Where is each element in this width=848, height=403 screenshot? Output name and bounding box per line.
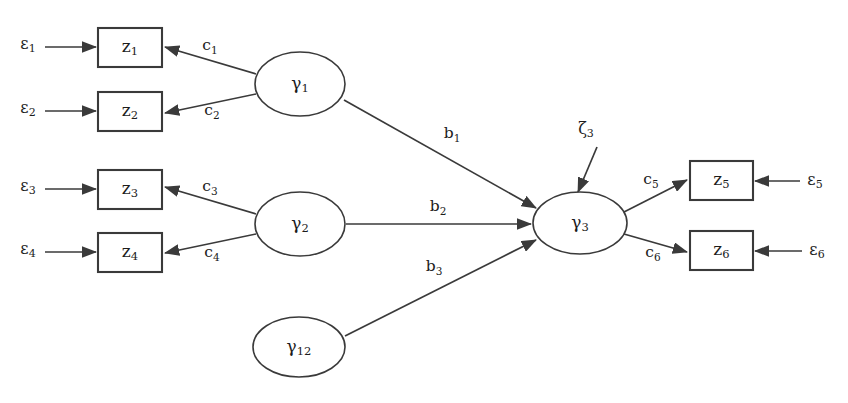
structural-label-b3: b3 xyxy=(426,257,443,277)
latent-node-gamma3: γ3 xyxy=(533,192,627,254)
diagram-canvas: γ1γ2γ12γ3z1z2z3z4z5z6 ε1ε2ε3ε4ε5ε6ζ3c1c2… xyxy=(0,0,848,403)
observed-node-z3: z3 xyxy=(98,170,162,209)
error-term-eps6: ε6 xyxy=(809,240,824,261)
nodes-layer: γ1γ2γ12γ3z1z2z3z4z5z6 xyxy=(98,28,753,377)
latent-node-gamma1: γ1 xyxy=(255,52,345,116)
sem-path-diagram: γ1γ2γ12γ3z1z2z3z4z5z6 ε1ε2ε3ε4ε5ε6ζ3c1c2… xyxy=(0,0,848,403)
loading-label-c2: c2 xyxy=(204,101,219,121)
observed-node-z5: z5 xyxy=(690,161,753,200)
edge-g12-to-g3 xyxy=(345,240,536,336)
loading-label-c6: c6 xyxy=(645,243,661,263)
structural-label-b2: b2 xyxy=(430,197,447,217)
error-term-eps1: ε1 xyxy=(20,34,35,55)
latent-node-gamma12: γ12 xyxy=(253,317,345,377)
observed-node-z1: z1 xyxy=(98,28,162,67)
edge-g3-to-z6 xyxy=(624,234,687,252)
loading-label-c5: c5 xyxy=(643,170,658,190)
error-term-eps3: ε3 xyxy=(20,176,35,197)
loading-label-c3: c3 xyxy=(202,177,217,197)
disturbance-term-zeta3: ζ3 xyxy=(578,119,594,140)
error-term-eps4: ε4 xyxy=(20,239,35,260)
structural-label-b1: b1 xyxy=(444,124,461,144)
edge-g1-to-g3 xyxy=(344,100,536,208)
edge-zeta3-to-g3 xyxy=(578,147,597,192)
error-term-eps2: ε2 xyxy=(20,98,35,119)
error-term-eps5: ε5 xyxy=(807,170,822,191)
observed-node-z4: z4 xyxy=(98,233,162,272)
observed-node-z2: z2 xyxy=(98,92,162,131)
latent-node-gamma2: γ2 xyxy=(255,192,345,256)
observed-node-z6: z6 xyxy=(690,231,753,270)
loading-label-c1: c1 xyxy=(202,36,217,56)
loading-label-c4: c4 xyxy=(204,243,220,263)
